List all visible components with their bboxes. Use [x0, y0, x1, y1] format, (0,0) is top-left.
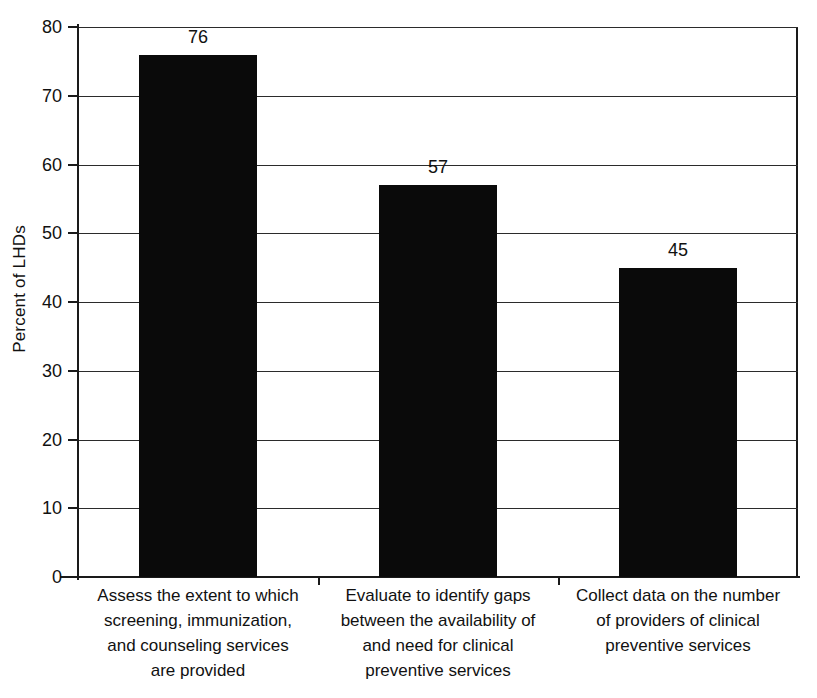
category-label-line: screening, immunization, — [70, 608, 326, 633]
bar-value-label: 57 — [339, 158, 537, 176]
y-axis-tick-label: 60 — [16, 156, 62, 174]
bar-chart: Percent of LHDs 0102030405060708076Asses… — [0, 0, 817, 698]
category-label-line: Evaluate to identify gaps — [310, 583, 566, 608]
bar-value-label: 45 — [579, 241, 777, 259]
y-axis-tick-label: 50 — [16, 224, 62, 242]
category-label-line: Assess the extent to which — [70, 583, 326, 608]
category-label-line: between the availability of — [310, 608, 566, 633]
y-axis-tick-label: 30 — [16, 362, 62, 380]
category-label-line: of providers of clinical — [550, 608, 806, 633]
y-axis-tick — [68, 164, 79, 166]
y-axis-tick-label: 40 — [16, 293, 62, 311]
x-axis-category-label: Collect data on the numberof providers o… — [550, 583, 806, 658]
y-axis-tick-label: 20 — [16, 431, 62, 449]
bar — [619, 268, 737, 577]
category-label-line: preventive services — [550, 633, 806, 658]
y-axis-tick-label: 80 — [16, 18, 62, 36]
y-axis-title-label: Percent of LHDs — [10, 225, 30, 353]
y-axis-tick — [68, 26, 79, 28]
bar — [379, 185, 497, 577]
category-label-line: and counseling services — [70, 633, 326, 658]
bar-value-label: 76 — [99, 28, 297, 46]
y-axis-tick-label: 0 — [16, 568, 62, 586]
category-label-line: Collect data on the number — [550, 583, 806, 608]
category-label-line: are provided — [70, 658, 326, 683]
y-axis-tick — [68, 439, 79, 441]
y-axis-tick-label: 70 — [16, 87, 62, 105]
y-axis-tick-label: 10 — [16, 499, 62, 517]
y-axis-tick — [68, 507, 79, 509]
y-axis-tick — [68, 370, 79, 372]
category-label-line: preventive services — [310, 658, 566, 683]
x-axis-category-label: Assess the extent to whichscreening, imm… — [70, 583, 326, 683]
category-label-line: and need for clinical — [310, 633, 566, 658]
y-axis-tick — [68, 95, 79, 97]
y-axis-tick — [68, 232, 79, 234]
y-axis-tick — [68, 576, 79, 578]
y-axis-tick — [68, 301, 79, 303]
x-axis-category-label: Evaluate to identify gapsbetween the ava… — [310, 583, 566, 683]
bar — [139, 55, 257, 578]
